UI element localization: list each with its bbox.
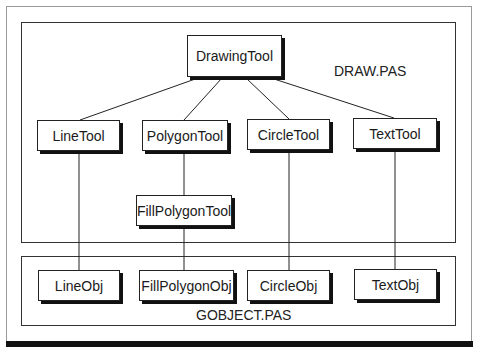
node-circleobj: CircleObj: [247, 270, 330, 301]
node-polygontool: PolygonTool: [142, 120, 228, 151]
node-lineobj: LineObj: [38, 270, 120, 301]
edge-drawingtool-linetool: [80, 78, 198, 120]
edge-drawingtool-circletool: [246, 78, 289, 119]
node-fillpolygonobj: FillPolygonObj: [139, 270, 234, 301]
node-textobj: TextObj: [354, 269, 437, 300]
node-circletool: CircleTool: [247, 119, 330, 150]
node-fillpolygontool: FillPolygonTool: [136, 195, 232, 226]
node-drawingtool: DrawingTool: [187, 35, 282, 77]
edge-drawingtool-texttool: [271, 78, 394, 118]
edge-drawingtool-polygontool: [184, 78, 222, 120]
node-linetool: LineTool: [37, 120, 120, 151]
node-texttool: TextTool: [353, 118, 437, 149]
